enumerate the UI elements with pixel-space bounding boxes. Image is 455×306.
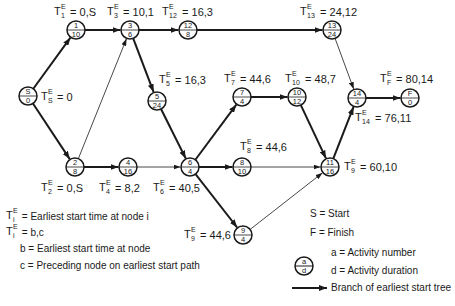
- legend-start: S = Start: [310, 209, 349, 219]
- te-symbol: TE9: [344, 161, 357, 172]
- node-F: F0: [401, 89, 419, 107]
- earliest-start-label-5: TE5 = 16,3: [159, 74, 206, 86]
- tree-branch-arrow-6-7: [195, 105, 236, 160]
- te-symbol: TEF: [380, 73, 393, 84]
- earliest-start-label-14: TE14 = 76,11: [355, 112, 411, 124]
- earliest-start-label-F: TEF = 80,14: [380, 73, 433, 85]
- te-symbol: TE1: [54, 6, 67, 17]
- earliest-start-value: = 16,3: [172, 74, 206, 86]
- legend-activity-number: a = Activity number: [331, 248, 416, 258]
- node-activity-number: 5: [155, 92, 159, 101]
- te-symbol: TE3: [107, 6, 120, 17]
- node-activity-duration: 12: [293, 97, 301, 106]
- activity-arrow-9-11: [250, 173, 322, 230]
- node-activity-duration: 0: [26, 96, 30, 105]
- node-7: 74: [233, 88, 251, 106]
- node-activity-duration: 10: [72, 30, 80, 39]
- edges-layer: [33, 30, 401, 229]
- legend-d-symbol: d: [302, 266, 306, 275]
- earliest-start-value: = 80,14: [393, 73, 433, 85]
- te-symbol: TE13: [300, 6, 317, 17]
- node-activity-duration: 4: [240, 97, 244, 106]
- legend-c-definition: c = Preceding node on earliest start pat…: [20, 261, 200, 271]
- legend-node-symbol: a d: [295, 257, 313, 275]
- earliest-start-label-3: TE3 = 10,1: [107, 6, 154, 18]
- earliest-start-value: = 76,11: [372, 112, 411, 124]
- node-activity-number: F: [408, 89, 413, 98]
- earliest-start-label-4: TE4 = 8,2: [99, 182, 140, 194]
- node-activity-number: 4: [126, 158, 130, 167]
- te-symbol: TEi: [6, 210, 19, 221]
- earliest-start-label-9: TE9 = 44,6: [184, 229, 231, 241]
- te-symbol: TE9: [184, 229, 197, 240]
- node-activity-duration: 4: [188, 167, 192, 176]
- node-activity-duration: 24: [328, 30, 336, 39]
- legend-tree-branch: Branch of earliest start tree: [331, 283, 451, 293]
- earliest-start-value: = 8,2: [112, 182, 140, 194]
- node-8: 810: [233, 158, 251, 176]
- te-symbol: TE10: [285, 73, 302, 84]
- node-activity-duration: 8: [73, 167, 77, 176]
- earliest-start-label-6: TE6 = 40,5: [153, 182, 200, 194]
- node-5: 524: [148, 92, 166, 110]
- tree-branch-arrow-3-5: [133, 38, 153, 92]
- node-2: 28: [66, 158, 84, 176]
- node-activity-number: 2: [73, 158, 77, 167]
- node-activity-duration: 4: [355, 98, 359, 107]
- earliest-start-label-8: TE8 = 44,6: [240, 141, 287, 153]
- earliest-start-label-10: TE10 = 48,7: [285, 73, 336, 85]
- activity-arrow-13-14: [335, 38, 354, 89]
- earliest-start-value: = 48,7: [302, 73, 336, 85]
- te-symbol: TE5: [159, 74, 172, 85]
- earliest-start-label-S: TES = 0: [41, 91, 73, 103]
- node-activity-number: 14: [353, 89, 361, 98]
- earliest-start-label-7: TE7 = 44,6: [224, 73, 271, 85]
- node-activity-number: 13: [328, 21, 336, 30]
- node-10: 1012: [288, 88, 306, 106]
- legend-te-format: TEi = b,c: [6, 226, 44, 238]
- node-3: 36: [121, 21, 139, 39]
- te-symbol: TE6: [153, 182, 166, 193]
- node-activity-duration: 10: [238, 167, 246, 176]
- earliest-start-value: = 40,5: [166, 182, 200, 194]
- earliest-start-value: = 60,10: [357, 161, 397, 173]
- node-activity-duration: 8: [186, 30, 190, 39]
- legend-te-format-text: = b,c: [22, 227, 44, 238]
- tree-branch-arrow-S-2: [33, 104, 70, 160]
- te-symbol: TE8: [240, 141, 253, 152]
- earliest-start-value: = 24,12: [317, 6, 357, 18]
- earliest-start-label-12: TE12 = 16,3: [162, 6, 213, 18]
- legend-te-definition-text: = Earliest start time at node i: [22, 211, 149, 222]
- node-11: 1116: [321, 158, 339, 176]
- te-symbol: TE4: [99, 182, 112, 193]
- earliest-start-label-2: TE2 = 0,S: [41, 182, 83, 194]
- node-activity-duration: 24: [153, 101, 161, 110]
- node-S: S0: [19, 87, 37, 105]
- node-activity-number: 9: [241, 226, 245, 235]
- earliest-start-label-9: TE9 = 60,10: [344, 161, 397, 173]
- legend-activity-duration: d = Activity duration: [331, 266, 418, 276]
- node-1: 110: [67, 21, 85, 39]
- legend-finish: F = Finish: [310, 228, 354, 238]
- earliest-start-value: = 44,6: [237, 73, 271, 85]
- tree-branch-arrow-S-1: [33, 38, 70, 89]
- node-activity-number: 6: [188, 158, 192, 167]
- node-activity-duration: 16: [124, 167, 132, 176]
- node-activity-number: S: [25, 87, 30, 96]
- node-12: 128: [179, 21, 197, 39]
- legend-te-definition: TEi = Earliest start time at node i: [6, 210, 149, 222]
- earliest-start-value: = 0: [54, 91, 73, 103]
- activity-arrow-2-3: [78, 39, 126, 159]
- node-activity-number: 7: [240, 88, 244, 97]
- earliest-start-value: = 16,3: [179, 6, 213, 18]
- tree-branch-arrow-10-11: [301, 105, 326, 158]
- te-symbol: TE12: [162, 6, 179, 17]
- earliest-start-value: = 44,6: [197, 229, 231, 241]
- earliest-start-label-1: TE1 = 0,S: [54, 6, 96, 18]
- tree-branch-arrow-6-9: [196, 174, 238, 227]
- earliest-start-label-13: TE13 = 24,12: [300, 6, 357, 18]
- node-9: 94: [234, 226, 252, 244]
- legend-b-definition: b = Earliest start time at node: [20, 244, 150, 254]
- node-activity-duration: 6: [128, 30, 132, 39]
- tree-branch-arrow-5-6: [161, 109, 186, 158]
